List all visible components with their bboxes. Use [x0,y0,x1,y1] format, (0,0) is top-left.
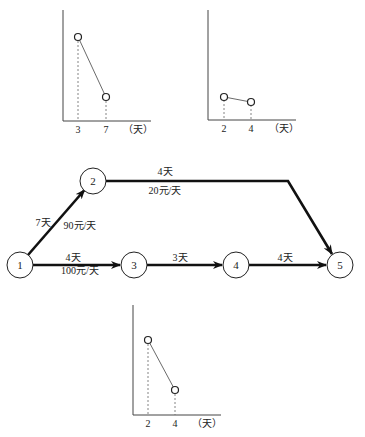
x-tick-label: 2 [222,123,227,134]
edge-2-5-cost: 20元/天 [149,185,182,196]
node-label: 4 [233,259,239,271]
x-tick-label: 4 [249,123,254,134]
data-point [221,94,228,101]
node-label: 2 [90,175,96,187]
node-3: 3 [121,252,147,278]
cost-chart-2: 2 4 （天） [208,10,299,134]
x-unit-label: （天） [192,418,222,429]
node-label: 3 [131,259,137,271]
edge-1-2-cost: 90元/天 [64,220,97,231]
cost-line [80,40,105,94]
edge-1-3-duration: 4天 [66,252,81,263]
activity-network: 1 2 3 4 5 7天 90元/天 4天 20元/天 4天 100元/天 3天… [7,166,353,278]
node-label: 1 [17,259,23,271]
cost-chart-1: 3 7 （天） [63,10,153,135]
node-2: 2 [80,168,106,194]
x-tick-label: 3 [76,124,81,135]
data-point [75,34,82,41]
cost-line [150,343,174,387]
node-label: 5 [337,259,343,271]
x-unit-label: （天） [123,124,153,135]
edge-1-3-cost: 100元/天 [61,265,99,276]
node-5: 5 [327,252,353,278]
edge-2-5 [106,181,332,254]
cost-chart-3: 2 4 （天） [133,305,222,429]
edge-4-5-duration: 4天 [278,252,293,263]
node-1: 1 [7,252,33,278]
node-4: 4 [223,252,249,278]
data-point [248,99,255,106]
x-unit-label: （天） [269,123,299,134]
x-tick-label: 4 [173,418,178,429]
data-point [103,94,110,101]
edge-2-5-duration: 4天 [158,166,173,177]
edge-3-4-duration: 3天 [173,252,188,263]
x-tick-label: 7 [104,124,109,135]
data-point [145,337,152,344]
cost-line [228,98,248,102]
data-point [172,387,179,394]
diagram-canvas: 3 7 （天） 2 4 （天） 1 2 [0,0,365,437]
x-tick-label: 2 [146,418,151,429]
edge-1-2-duration: 7天 [36,217,51,228]
